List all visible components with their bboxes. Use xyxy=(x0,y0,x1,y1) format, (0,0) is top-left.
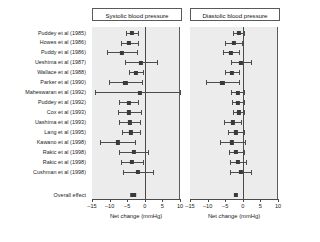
panel-title-diastolic: Diastolic blood pressure xyxy=(190,8,280,21)
study-label: Cushman et al (1998) xyxy=(33,169,86,175)
x-axis-diastolic xyxy=(190,199,278,200)
point-estimate-marker xyxy=(116,140,120,144)
point-estimate-marker xyxy=(139,61,143,65)
ci-lower-cap xyxy=(107,50,108,55)
ci-lower-cap xyxy=(230,170,231,175)
ci-lower-cap xyxy=(125,60,126,65)
x-axis-tick-label: 0 xyxy=(143,203,146,210)
plot-area-diastolic xyxy=(190,27,278,199)
study-label: Rakic et al (1998) xyxy=(43,149,86,155)
study-label: Uashima et al (1993) xyxy=(35,119,86,125)
ci-upper-cap xyxy=(137,50,138,55)
x-axis-title-diastolic: Net change (mmHg) xyxy=(190,213,278,219)
point-estimate-marker xyxy=(230,140,234,144)
ci-upper-cap xyxy=(180,90,181,95)
x-axis-tick xyxy=(162,199,163,202)
ci-lower-cap xyxy=(228,130,229,135)
ci-upper-cap xyxy=(244,130,245,135)
ci-lower-cap xyxy=(129,70,130,75)
study-label: Ueshima et al (1987) xyxy=(35,59,86,65)
x-axis-tick-label: –10 xyxy=(203,203,212,210)
ci-upper-cap xyxy=(141,110,142,115)
ci-upper-cap xyxy=(239,80,240,85)
forest-row xyxy=(190,89,277,97)
x-axis-title-systolic: Net change (mmHg) xyxy=(92,213,180,219)
point-estimate-marker xyxy=(131,150,135,154)
ci-upper-cap xyxy=(140,120,141,125)
overall-effect-diamond xyxy=(234,193,238,197)
ci-lower-cap xyxy=(225,41,226,46)
point-estimate-marker xyxy=(129,130,133,134)
ci-upper-cap xyxy=(148,150,149,155)
forest-row xyxy=(92,29,179,37)
forest-row xyxy=(190,129,277,137)
point-estimate-marker xyxy=(230,120,234,124)
point-estimate-marker xyxy=(123,81,127,85)
x-axis-tick xyxy=(92,199,93,202)
panel-title-systolic: Systolic blood pressure xyxy=(92,8,182,21)
ci-lower-cap xyxy=(231,90,232,95)
point-estimate-marker xyxy=(126,101,130,105)
ci-lower-cap xyxy=(122,130,123,135)
study-label: Maheswaran et al (1992) xyxy=(25,89,86,95)
forest-row xyxy=(190,138,277,146)
forest-row xyxy=(92,109,179,117)
x-axis-tick-label: 10 xyxy=(177,203,183,210)
forest-row xyxy=(190,59,277,67)
x-axis-tick-label: 5 xyxy=(161,203,164,210)
point-estimate-marker xyxy=(134,71,138,75)
x-axis-tick xyxy=(278,199,279,202)
forest-row xyxy=(190,148,277,156)
point-estimate-marker xyxy=(239,61,243,65)
study-label: Rakic et al (1998) xyxy=(43,159,86,165)
ci-upper-cap xyxy=(138,41,139,46)
forest-row xyxy=(92,89,179,97)
ci-lower-cap xyxy=(224,120,225,125)
point-estimate-marker xyxy=(236,31,240,35)
forest-row xyxy=(190,69,277,77)
x-axis-tick-label: –15 xyxy=(185,203,194,210)
study-label: Puddey et al (1985) xyxy=(38,30,86,36)
x-axis-tick xyxy=(243,199,244,202)
ci-upper-cap xyxy=(138,100,139,105)
x-axis-tick xyxy=(190,199,191,202)
ci-lower-cap xyxy=(121,41,122,46)
study-label: Howes et al (1986) xyxy=(40,39,86,45)
ci-upper-cap xyxy=(135,140,136,145)
point-estimate-marker xyxy=(236,110,240,114)
point-estimate-marker xyxy=(239,170,243,174)
forest-row xyxy=(92,59,179,67)
point-estimate-marker xyxy=(234,130,238,134)
study-label: Puddey et al (1992) xyxy=(38,99,86,105)
forest-row xyxy=(92,168,179,176)
x-axis-tick xyxy=(127,199,128,202)
study-label: Lang et al (1995) xyxy=(44,129,86,135)
forest-row xyxy=(92,158,179,166)
ci-upper-cap xyxy=(140,130,141,135)
x-axis-tick-label: –10 xyxy=(105,203,114,210)
ci-lower-cap xyxy=(233,31,234,36)
ci-lower-cap xyxy=(118,110,119,115)
ci-lower-cap xyxy=(232,100,233,105)
x-axis-tick-label: 10 xyxy=(275,203,281,210)
ci-lower-cap xyxy=(119,100,120,105)
ci-upper-cap xyxy=(251,170,252,175)
panel-diastolic-blood-pressure: Diastolic blood pressure Net change (mmH… xyxy=(186,0,284,242)
ci-upper-cap xyxy=(244,110,245,115)
ci-upper-cap xyxy=(251,60,252,65)
ci-upper-cap xyxy=(242,41,243,46)
study-label: Cox et al (1993) xyxy=(47,109,86,115)
study-label: Puddy et al (1986) xyxy=(41,49,86,55)
forest-row xyxy=(190,158,277,166)
ci-upper-cap xyxy=(244,31,245,36)
forest-row xyxy=(190,168,277,176)
forest-row xyxy=(190,99,277,107)
point-estimate-marker xyxy=(138,91,142,95)
ci-lower-cap xyxy=(109,80,110,85)
ci-lower-cap xyxy=(230,160,231,165)
ci-upper-cap xyxy=(157,60,158,65)
x-axis-systolic xyxy=(92,199,180,200)
plot-area-systolic xyxy=(92,27,180,199)
overall-effect-label: Overall effect xyxy=(54,192,86,198)
forest-row xyxy=(190,109,277,117)
